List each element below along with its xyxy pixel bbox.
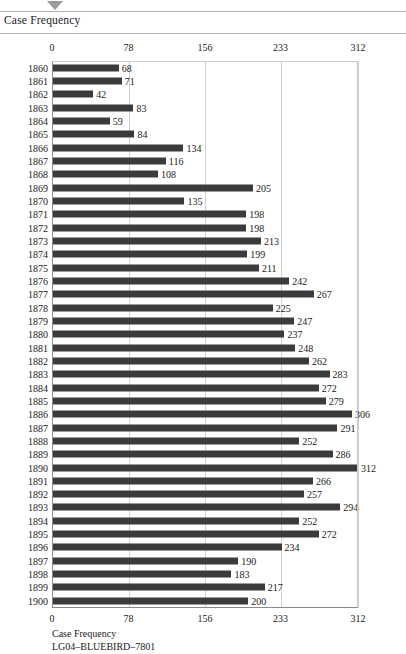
bar	[52, 117, 110, 124]
bar	[52, 291, 314, 298]
bar	[52, 597, 248, 604]
bar-value-label: 252	[302, 515, 317, 526]
bar-row: 1888252	[52, 434, 358, 447]
bar-row: 1898183	[52, 567, 358, 580]
bar-category-label: 1862	[28, 89, 48, 100]
bar-value-label: 248	[298, 342, 313, 353]
bar-row: 1866134	[52, 141, 358, 154]
x-axis-tick-label: 0	[50, 613, 55, 624]
bar-category-label: 1870	[28, 195, 48, 206]
x-axis-tick-label: 312	[351, 42, 366, 53]
bar-row: 1886306	[52, 408, 358, 421]
bar-row: 1894252	[52, 514, 358, 527]
bar-value-label: 134	[186, 142, 201, 153]
bar-category-label: 1894	[28, 515, 48, 526]
bar-row: 1878225	[52, 301, 358, 314]
bar	[52, 584, 265, 591]
bar-category-label: 1895	[28, 529, 48, 540]
bar-value-label: 234	[285, 542, 300, 553]
bar-category-label: 1887	[28, 422, 48, 433]
bar	[52, 451, 333, 458]
x-axis-tick-label: 78	[124, 613, 134, 624]
bar-value-label: 252	[302, 435, 317, 446]
bar-row: 1900200	[52, 594, 358, 607]
bar-category-label: 1861	[28, 75, 48, 86]
bar-value-label: 279	[329, 395, 344, 406]
bar-value-label: 83	[136, 102, 146, 113]
bar-value-label: 84	[137, 129, 147, 140]
page-title: Case Frequency	[4, 14, 81, 26]
bar-category-label: 1893	[28, 502, 48, 513]
bar-value-label: 306	[355, 409, 370, 420]
bar-value-label: 198	[249, 209, 264, 220]
bar-rows: 1860681861711862421863831864591865841866…	[52, 61, 358, 608]
bar	[52, 384, 319, 391]
bar-row: 1876242	[52, 274, 358, 287]
bar-value-label: 59	[113, 115, 123, 126]
bar-category-label: 1877	[28, 289, 48, 300]
bar-value-label: 198	[249, 222, 264, 233]
bar-row: 1868108	[52, 168, 358, 181]
bar-value-label: 205	[256, 182, 271, 193]
x-axis-tick-label: 156	[198, 613, 213, 624]
bar-row: 186242	[52, 88, 358, 101]
bar-row: 1867116	[52, 154, 358, 167]
header-band: Case Frequency	[0, 0, 406, 36]
bar	[52, 557, 238, 564]
bar-category-label: 1885	[28, 395, 48, 406]
bar-row: 186171	[52, 74, 358, 87]
bar	[52, 77, 122, 84]
bar-row: 1890312	[52, 461, 358, 474]
bar-category-label: 1896	[28, 542, 48, 553]
bar	[52, 491, 304, 498]
bar-value-label: 283	[333, 369, 348, 380]
bar-row: 1870135	[52, 194, 358, 207]
x-axis-tick-label: 312	[351, 613, 366, 624]
bar-row: 1880237	[52, 328, 358, 341]
bar	[52, 331, 284, 338]
bar	[52, 517, 299, 524]
bar-category-label: 1871	[28, 209, 48, 220]
bar-row: 1869205	[52, 181, 358, 194]
bar	[52, 131, 134, 138]
bar-row: 1875211	[52, 261, 358, 274]
bar-value-label: 272	[322, 529, 337, 540]
bar-category-label: 1873	[28, 235, 48, 246]
bar-row: 1882262	[52, 354, 358, 367]
bar	[52, 424, 337, 431]
bar	[52, 264, 259, 271]
bar-row: 1899217	[52, 581, 358, 594]
bar	[52, 91, 93, 98]
bar-value-label: 262	[312, 355, 327, 366]
gridline	[358, 61, 359, 608]
header-divider-bottom	[0, 33, 406, 34]
bar-row: 1892257	[52, 488, 358, 501]
bar-category-label: 1881	[28, 342, 48, 353]
bar-value-label: 272	[322, 382, 337, 393]
bar-row: 1885279	[52, 394, 358, 407]
bar-row: 186383	[52, 101, 358, 114]
bar-row: 1877267	[52, 288, 358, 301]
header-divider-top	[0, 11, 406, 12]
bar-value-label: 217	[268, 582, 283, 593]
bar	[52, 344, 295, 351]
bar-value-label: 247	[297, 315, 312, 326]
plot-area: 1860681861711862421863831864591865841866…	[52, 61, 358, 608]
bar-chart: 1860681861711862421863831864591865841866…	[0, 40, 406, 640]
bar-row: 186584	[52, 128, 358, 141]
bar	[52, 304, 273, 311]
bar-row: 1887291	[52, 421, 358, 434]
bar	[52, 464, 358, 471]
bar-category-label: 1883	[28, 369, 48, 380]
bar	[52, 104, 133, 111]
x-axis-tick-label: 233	[273, 42, 288, 53]
bar-row: 186459	[52, 114, 358, 127]
bar-category-label: 1869	[28, 182, 48, 193]
bar-value-label: 267	[317, 289, 332, 300]
bar	[52, 237, 261, 244]
bar-category-label: 1890	[28, 462, 48, 473]
bar-category-label: 1865	[28, 129, 48, 140]
bar-value-label: 190	[241, 555, 256, 566]
chart-code-label: LG04–BLUEBIRD–7801	[52, 641, 155, 652]
bar-row: 1896234	[52, 541, 358, 554]
